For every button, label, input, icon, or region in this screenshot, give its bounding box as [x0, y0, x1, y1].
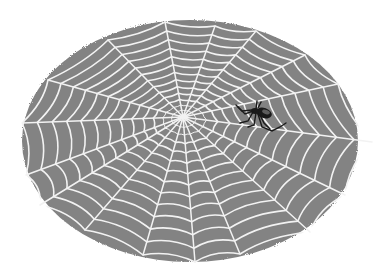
web-canvas — [0, 0, 389, 279]
spider-web-illustration — [0, 0, 389, 279]
